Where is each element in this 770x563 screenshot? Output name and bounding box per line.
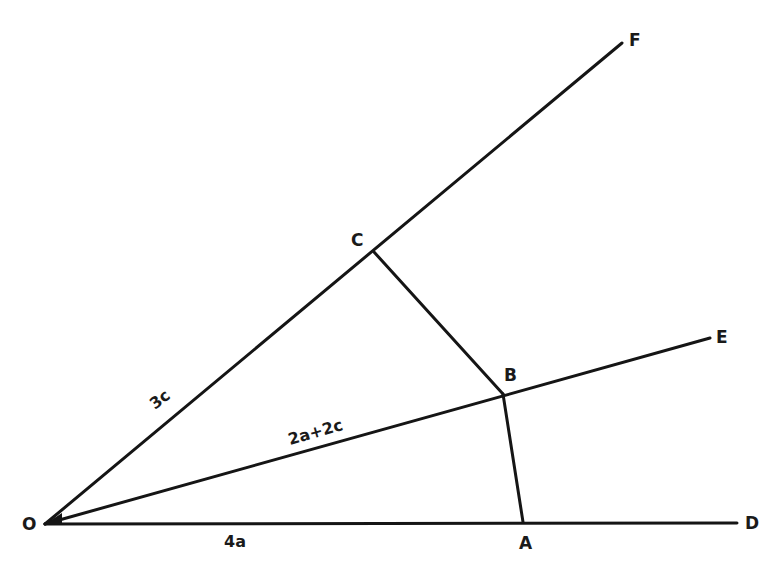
segment-BA [503,394,523,522]
segment-CB [374,252,503,394]
point-label-O: O [22,514,36,534]
point-label-A: A [519,533,533,553]
point-label-C: C [351,230,363,250]
segment-label-OC: 3c [146,385,174,413]
ray-OE [45,338,710,524]
ray-OD [45,523,737,524]
ray-OF [45,43,622,524]
geometry-diagram: O A B C D E F 3c 2a+2c 4a [0,0,770,563]
point-label-B: B [504,365,517,385]
point-label-D: D [745,513,759,533]
point-label-F: F [629,30,641,50]
point-label-E: E [716,327,728,347]
segment-label-OA: 4a [224,532,246,551]
